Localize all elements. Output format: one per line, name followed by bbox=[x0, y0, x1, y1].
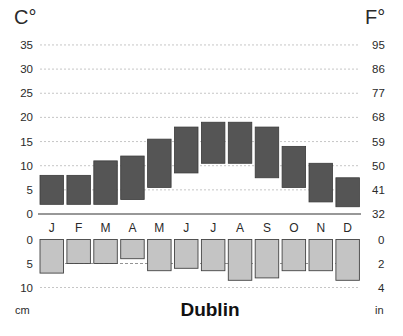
celsius-tick: 25 bbox=[20, 87, 33, 99]
temperature-bar bbox=[175, 127, 199, 173]
celsius-tick: 5 bbox=[27, 184, 33, 196]
temperature-bar bbox=[255, 127, 279, 178]
celsius-tick: 20 bbox=[20, 111, 33, 123]
inch-tick: 2 bbox=[378, 258, 384, 270]
temperature-bar bbox=[67, 175, 91, 204]
precipitation-bar bbox=[282, 240, 306, 271]
inch-unit-label: in bbox=[375, 304, 384, 316]
fahrenheit-tick: 86 bbox=[372, 63, 385, 75]
chart-title: Dublin bbox=[180, 299, 239, 320]
precipitation-bar bbox=[255, 240, 279, 278]
celsius-tick: 15 bbox=[20, 136, 33, 148]
month-label: F bbox=[75, 221, 82, 235]
month-label: A bbox=[236, 221, 244, 235]
temperature-bar bbox=[282, 146, 306, 187]
inch-axis: 024 bbox=[378, 234, 385, 294]
month-label: S bbox=[263, 221, 271, 235]
fahrenheit-tick: 95 bbox=[372, 39, 385, 51]
precipitation-bar bbox=[121, 240, 145, 259]
temperature-bar bbox=[94, 161, 118, 204]
fahrenheit-tick: 68 bbox=[372, 111, 385, 123]
cm-unit-label: cm bbox=[15, 304, 30, 316]
cm-tick: 0 bbox=[27, 234, 33, 246]
temperature-bar bbox=[148, 139, 172, 187]
celsius-unit-label: C° bbox=[14, 6, 36, 28]
month-label: M bbox=[154, 221, 164, 235]
temperature-bar bbox=[228, 122, 252, 163]
climate-chart: C° F° 05101520253035 3241505968778695 JF… bbox=[0, 0, 403, 336]
precipitation-bar bbox=[67, 240, 91, 264]
fahrenheit-tick: 41 bbox=[372, 184, 385, 196]
celsius-tick: 10 bbox=[20, 160, 33, 172]
month-label: N bbox=[316, 221, 325, 235]
precipitation-bar bbox=[336, 240, 360, 281]
fahrenheit-unit-label: F° bbox=[365, 6, 385, 28]
precipitation-bar bbox=[201, 240, 225, 271]
cm-tick: 10 bbox=[20, 282, 33, 294]
fahrenheit-axis: 3241505968778695 bbox=[372, 39, 385, 220]
precipitation-bar bbox=[309, 240, 333, 271]
month-labels: JFMAMJJASOND bbox=[49, 221, 353, 235]
inch-tick: 0 bbox=[378, 234, 384, 246]
fahrenheit-tick: 77 bbox=[372, 87, 385, 99]
fahrenheit-tick: 50 bbox=[372, 160, 385, 172]
precipitation-bars bbox=[40, 240, 359, 281]
celsius-axis: 05101520253035 bbox=[20, 39, 33, 220]
temperature-bar bbox=[40, 175, 64, 204]
precipitation-bar bbox=[94, 240, 118, 264]
month-label: O bbox=[289, 221, 298, 235]
celsius-tick: 0 bbox=[27, 208, 33, 220]
inch-tick: 4 bbox=[378, 282, 385, 294]
month-label: D bbox=[343, 221, 352, 235]
cm-tick: 5 bbox=[27, 258, 33, 270]
precipitation-bar bbox=[228, 240, 252, 281]
temperature-bar bbox=[201, 122, 225, 163]
fahrenheit-tick: 32 bbox=[372, 208, 385, 220]
month-label: J bbox=[49, 221, 55, 235]
cm-axis: 0510 bbox=[20, 234, 33, 294]
month-label: J bbox=[210, 221, 216, 235]
month-label: J bbox=[183, 221, 189, 235]
temperature-bar bbox=[336, 178, 360, 207]
precipitation-bar bbox=[148, 240, 172, 271]
celsius-tick: 30 bbox=[20, 63, 33, 75]
fahrenheit-tick: 59 bbox=[372, 136, 385, 148]
month-label: A bbox=[128, 221, 136, 235]
celsius-tick: 35 bbox=[20, 39, 33, 51]
temperature-bar bbox=[121, 156, 145, 199]
temperature-bars bbox=[40, 122, 359, 207]
month-label: M bbox=[101, 221, 111, 235]
precipitation-bar bbox=[175, 240, 199, 269]
temperature-bar bbox=[309, 163, 333, 202]
precipitation-bar bbox=[40, 240, 64, 274]
